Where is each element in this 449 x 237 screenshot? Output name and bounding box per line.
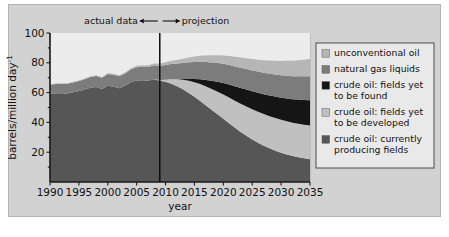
oil-production-stacked-area-chart: 2040608010019901995200020052010201520202… [0,0,449,237]
figure-container: 2040608010019901995200020052010201520202… [0,0,449,237]
x-tick-label: 2010 [152,186,179,198]
legend-label-crude-oil-yet-to-be-found: crude oil: fields yet [334,79,423,90]
projection-arrow-head-icon [176,19,180,24]
y-axis-title-exponent: -1 [5,55,14,62]
legend-label-crude-oil-yet-to-be-found: to be found [334,90,388,101]
plot-area [50,33,310,182]
legend-swatch-natural-gas-liquids [322,66,330,74]
legend-label-crude-oil-currently-producing: producing fields [334,144,409,155]
y-tick-label: 20 [31,146,44,158]
legend-label-natural-gas-liquids: natural gas liquids [334,63,420,74]
legend-label-crude-oil-currently-producing: crude oil: currently [334,133,422,144]
legend: unconventional oilnatural gas liquidscru… [316,43,434,168]
legend-label-crude-oil-yet-to-be-developed: to be developed [334,117,410,128]
x-tick-label: 1990 [37,186,64,198]
legend-label-crude-oil-yet-to-be-developed: crude oil: fields yet [334,106,423,117]
legend-swatch-crude-oil-currently-producing [322,136,330,144]
projection-label: projection [182,15,229,26]
x-tick-label: 1995 [66,186,93,198]
legend-swatch-crude-oil-yet-to-be-found [322,82,330,90]
y-tick-label: 40 [31,116,44,128]
x-tick-label: 2015 [181,186,208,198]
y-tick-label: 80 [31,56,44,68]
legend-item-natural-gas-liquids[interactable]: natural gas liquids [322,63,420,74]
legend-swatch-crude-oil-yet-to-be-developed [322,109,330,117]
legend-item-unconventional-oil[interactable]: unconventional oil [322,47,420,58]
x-tick-label: 2025 [239,186,266,198]
y-axis-title-text: barrels/million day-1 [5,55,18,160]
x-tick-label: 2020 [210,186,237,198]
y-tick-label: 100 [24,27,44,39]
x-tick-label: 2005 [123,186,150,198]
legend-item-crude-oil-yet-to-be-developed[interactable]: crude oil: fields yetto be developed [322,106,423,128]
y-tick-label: 60 [31,86,44,98]
actual-data-label: actual data [84,15,138,26]
legend-item-crude-oil-currently-producing[interactable]: crude oil: currentlyproducing fields [322,133,422,155]
y-axis-title: barrels/million day-1 [5,55,18,160]
x-tick-label: 2000 [94,186,121,198]
x-axis-title: year [168,200,192,212]
legend-swatch-unconventional-oil [322,50,330,58]
actual-data-arrow-head-icon [140,19,144,24]
x-tick-label: 2035 [297,186,324,198]
x-tick-label: 2030 [268,186,295,198]
legend-label-unconventional-oil: unconventional oil [334,47,420,58]
